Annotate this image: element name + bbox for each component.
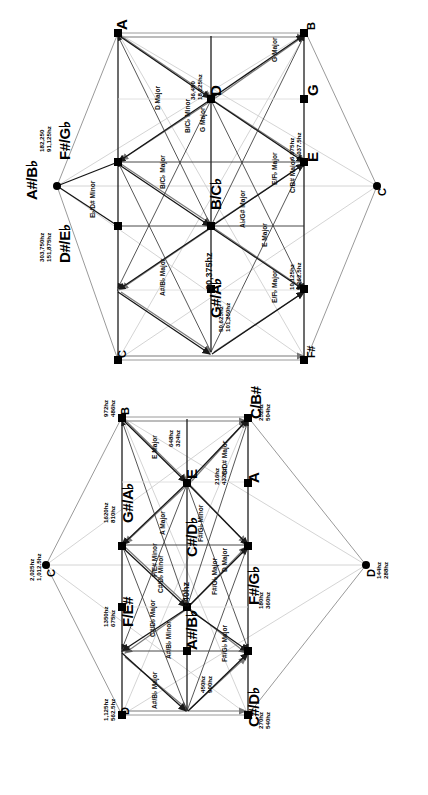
- freq-e-2: 10,125hz: [289, 264, 296, 290]
- edge-label-fes-minor: F/E# Minor: [152, 543, 159, 577]
- node-label-a-bottom: A: [246, 473, 261, 483]
- edge-label-csdb-minor: C#/D♭ Minor: [158, 555, 165, 593]
- lattice-diagram-top: A B D G F#/G♭ A#/B♭ B/C♭ E D#/E♭ G#/A♭ C…: [0, 0, 428, 397]
- figure-canvas: A B D G F#/G♭ A#/B♭ B/C♭ E D#/E♭ G#/A♭ C…: [0, 0, 428, 795]
- freq-gsab-bottom-2: 1620hz: [103, 502, 110, 523]
- lattice-diagram-bottom: B C/B# E A G#/A♭ C#/D♭ D C F/E# A#/B♭ F#…: [0, 397, 428, 794]
- edge-label-bcb-major: B/C♭ Major: [160, 155, 167, 189]
- edge-label-cbs-major: C/B# Major: [290, 159, 297, 193]
- edge-label-efb-major-1: E/F♭ Major: [272, 152, 279, 185]
- edge-label-a-major: A Major: [160, 511, 167, 535]
- freq-dseb-2: 303,750hz: [39, 233, 46, 262]
- node-label-gsab-bottom: G#/A♭: [120, 483, 135, 523]
- freq-fes-1: 675hz: [110, 610, 117, 627]
- freq-gsab-2: 101,250hz: [225, 303, 232, 332]
- node-label-dseb: D#/E♭: [57, 225, 72, 263]
- node-label-fs: F#: [306, 346, 317, 358]
- freq-fsgb-2: 182,250: [39, 130, 46, 152]
- freq-e-bottom-2: 648hz: [168, 430, 175, 447]
- node-label-c: C: [117, 350, 128, 358]
- edge-label-bcb-minor: B/C♭ Minor: [185, 99, 192, 133]
- freq-g-2: 6,075hz: [289, 138, 296, 160]
- edge-label-asbb-major: A#/B♭ Major: [160, 259, 167, 296]
- outer-hull-bottom: [46, 417, 366, 715]
- freq-b-bottom-2: 972hz: [103, 400, 110, 417]
- freq-csdb2-2: 540hz: [265, 712, 272, 729]
- freq-dbot-2: 1,125hz: [103, 699, 110, 721]
- freq-dseb-1: 151,875hz: [46, 233, 53, 262]
- freq-fsgb-bottom-2: 360hz: [265, 592, 272, 609]
- edge-label-d-major-bottom: D Major: [222, 548, 229, 572]
- faint-diagonals-bottom: [46, 417, 366, 715]
- lattice-nodes-bottom: [42, 414, 370, 719]
- edge-label-g-major-1: G Major: [272, 37, 279, 62]
- edge-label-fsgb-major-2: F#/G♭ Major: [222, 625, 229, 662]
- freq-d-right-2: 288hz: [383, 562, 390, 579]
- edge-label-e-major-bottom: E Major: [152, 435, 159, 459]
- node-label-cfar: C: [377, 188, 388, 196]
- freq-asbb-bottom-2: 900hz: [207, 676, 214, 693]
- node-label-bcb: B/C♭: [208, 179, 223, 210]
- node-label-b: B: [306, 22, 317, 30]
- node-label-asbb: A#/B♭: [24, 161, 39, 200]
- freq-e-1: 5,062.5hz: [296, 262, 303, 290]
- node-label-fes: F/E#: [120, 597, 135, 627]
- node-label-e: E: [305, 152, 320, 162]
- edge-label-csdb-major: C#/D♭ Major: [150, 600, 157, 637]
- freq-c-left-1: 1,012.5hz: [36, 553, 43, 581]
- freq-b-bottom-1: 486hz: [110, 400, 117, 417]
- node-label-g: G: [305, 85, 320, 96]
- freq-cbs-2: 504hz: [265, 404, 272, 421]
- edge-label-fsgb-minor: F#/G♭ Minor: [198, 505, 205, 542]
- node-label-a: A: [114, 20, 129, 30]
- freq-gsab-bottom-1: 810hz: [110, 506, 117, 523]
- freq-c-left-2: 2,025hz: [29, 559, 36, 581]
- edge-label-efb-major-2: E/F♭ Major: [272, 270, 279, 303]
- node-label-d: D: [208, 86, 223, 96]
- edge-label-e-major: E Major: [262, 223, 269, 247]
- freq-fsgb-1: 91,125hz: [46, 126, 53, 152]
- edge-label-g-major-2: G Major: [200, 107, 207, 132]
- node-label-c-left: C: [46, 569, 57, 577]
- freq-g-1: 3,037.5hz: [296, 132, 303, 160]
- node-label-asbb-bottom: A#/B♭: [184, 611, 199, 650]
- freq-dbot-1: 562.5hz: [110, 699, 117, 721]
- freq-fes-2: 1350hz: [103, 606, 110, 627]
- freq-e-bottom-1: 324hz: [175, 430, 182, 447]
- freq-d-2: 36,450: [190, 81, 197, 100]
- edge-label-c-ds-major: C/D# Major: [222, 441, 229, 475]
- edge-label-d-major: D Major: [155, 86, 162, 110]
- node-label-b-bottom: B: [120, 407, 131, 415]
- freq-bcb-1: 30,375hz: [205, 252, 214, 290]
- lattice-edges-bottom: [0, 397, 428, 795]
- edge-label-ab-gs-major: A♭/G# Major: [240, 190, 247, 228]
- node-label-e-bottom: E: [184, 469, 199, 479]
- edge-label-fsgb-major-1: F#/G♭ Major: [212, 558, 219, 595]
- edge-label-asbb-major-bottom: A#/B♭ Major: [152, 672, 159, 709]
- node-label-d-bottomleft: D: [120, 707, 131, 715]
- freq-d-1: 18,225hz: [197, 74, 204, 100]
- edge-label-asbb-minor: A#/B♭ Minor: [166, 621, 173, 659]
- node-label-fsgb: F#/G♭: [57, 122, 72, 160]
- edge-label-eb-ds-minor: E♭/D# Minor: [90, 181, 97, 218]
- freq-csdb-1: 540hz: [182, 582, 191, 607]
